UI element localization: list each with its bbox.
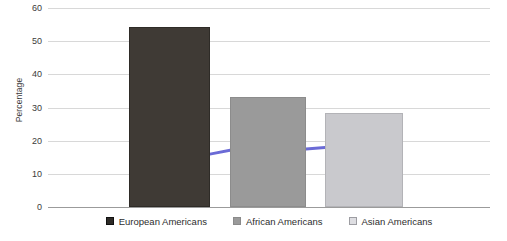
chart-legend: European AmericansAfrican AmericansAsian… (48, 210, 490, 232)
y-tick-label: 50 (32, 36, 42, 46)
legend-item-1[interactable]: African Americans (233, 216, 323, 227)
gridline (48, 41, 490, 42)
y-tick-label: 0 (37, 202, 42, 212)
y-tick-label: 30 (32, 103, 42, 113)
y-tick-label: 10 (32, 169, 42, 179)
legend-label: African Americans (246, 216, 323, 227)
legend-swatch-icon (349, 217, 357, 225)
bar-0 (129, 27, 210, 207)
bar-2 (325, 113, 403, 207)
legend-label: Asian Americans (362, 216, 433, 227)
gridline (48, 74, 490, 75)
legend-item-0[interactable]: European Americans (106, 216, 207, 227)
y-axis-title: Percentage (8, 0, 30, 200)
legend-item-2[interactable]: Asian Americans (349, 216, 433, 227)
legend-label: European Americans (119, 216, 207, 227)
bar-1 (230, 97, 306, 207)
gridline (48, 8, 490, 9)
legend-swatch-icon (233, 217, 241, 225)
y-axis-title-label: Percentage (14, 78, 24, 122)
bar-chart: Percentage 0102030405060 European Americ… (0, 0, 507, 241)
y-tick-label: 20 (32, 136, 42, 146)
y-tick-label: 60 (32, 3, 42, 13)
x-axis-baseline (48, 207, 490, 208)
y-tick-label: 40 (32, 69, 42, 79)
legend-swatch-icon (106, 217, 114, 225)
plot-area: 0102030405060 (48, 8, 490, 207)
